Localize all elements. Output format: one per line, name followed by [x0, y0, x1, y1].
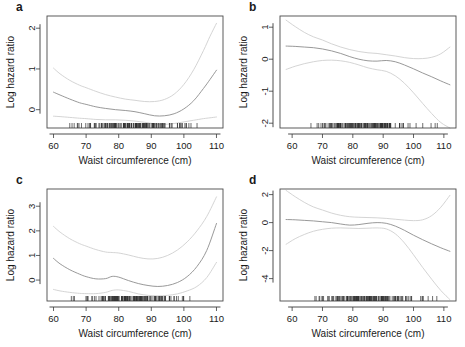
y-axis-title-c: Log hazard ratio [5, 208, 16, 281]
x-tick-label: 100 [406, 140, 422, 151]
y-tick-label: 2 [26, 228, 37, 233]
panel-c: c 607080901001100123Waist circumference … [0, 173, 232, 346]
curve-b-ci-0 [286, 20, 450, 59]
y-axis-title-a: Log hazard ratio [5, 35, 16, 108]
x-tick-label: 70 [317, 140, 328, 151]
curve-d-ci-2 [286, 228, 450, 300]
y-tick-label: 0 [26, 277, 37, 282]
y-axis-title-b: Log hazard ratio [238, 35, 249, 108]
curve-c-ci-0 [54, 197, 217, 259]
x-axis-c: 60708090100110 [48, 307, 224, 324]
rug-plot-c [71, 296, 190, 301]
curve-d-fit [286, 220, 450, 252]
x-axis-title-c: Waist circumference (cm) [79, 328, 192, 339]
y-tick-label: 1 [259, 25, 270, 30]
x-axis-b: 60708090100110 [287, 134, 452, 151]
x-tick-label: 110 [436, 313, 451, 324]
curve-c-ci-2 [54, 262, 217, 295]
y-axis-b: -2-101 [259, 23, 273, 127]
x-tick-label: 100 [406, 313, 422, 324]
curve-b-fit [286, 46, 450, 85]
rug-plot-d [315, 296, 437, 301]
panel-d: d 60708090100110-4-202Waist circumferenc… [233, 173, 465, 346]
x-tick-label: 70 [317, 313, 328, 324]
x-tick-label: 90 [378, 140, 389, 151]
y-axis-d: -4-202 [259, 191, 273, 283]
x-tick-label: 110 [209, 313, 224, 324]
x-tick-label: 80 [348, 140, 359, 151]
y-tick-label: 0 [259, 220, 270, 225]
curve-a-fit [54, 70, 217, 116]
x-axis-title-d: Waist circumference (cm) [312, 328, 425, 339]
y-tick-label: -2 [259, 246, 270, 254]
x-tick-label: 60 [48, 140, 59, 151]
panel-a: a 60708090100110012Waist circumference (… [0, 0, 232, 173]
rug-plot-b [311, 123, 437, 128]
x-tick-label: 80 [113, 140, 124, 151]
rug-plot-a [70, 123, 197, 128]
x-tick-label: 110 [436, 140, 451, 151]
plot-frame-d [280, 189, 456, 301]
y-tick-label: -1 [259, 87, 270, 95]
y-axis-title-d: Log hazard ratio [238, 208, 249, 281]
x-tick-label: 80 [348, 313, 359, 324]
x-tick-label: 60 [287, 313, 298, 324]
x-tick-label: 90 [146, 313, 157, 324]
x-tick-label: 70 [81, 313, 92, 324]
x-axis-title-b: Waist circumference (cm) [312, 155, 425, 166]
y-tick-label: -4 [259, 274, 270, 282]
curve-c-fit [54, 223, 217, 286]
y-axis-c: 0123 [26, 202, 40, 284]
figure-container: a 60708090100110012Waist circumference (… [0, 0, 465, 347]
y-tick-label: 1 [26, 66, 37, 71]
y-tick-label: 0 [26, 107, 37, 112]
curve-d-ci-0 [286, 190, 450, 220]
x-tick-label: 60 [287, 140, 298, 151]
curve-b-ci-2 [286, 60, 450, 128]
plot-frame-a [47, 16, 223, 128]
x-tick-label: 70 [81, 140, 92, 151]
x-tick-label: 60 [48, 313, 59, 324]
panel-b: b 60708090100110-2-101Waist circumferenc… [233, 0, 465, 173]
x-tick-label: 110 [209, 140, 224, 151]
curve-a-ci-0 [54, 23, 217, 101]
y-axis-a: 012 [26, 24, 40, 113]
y-tick-label: 1 [26, 253, 37, 258]
y-tick-label: 3 [26, 204, 37, 209]
plot-frame-c [47, 189, 223, 301]
x-tick-label: 80 [113, 313, 124, 324]
x-axis-a: 60708090100110 [48, 134, 224, 151]
x-tick-label: 100 [176, 313, 192, 324]
y-tick-label: 2 [259, 192, 270, 197]
x-tick-label: 90 [146, 140, 157, 151]
x-axis-title-a: Waist circumference (cm) [79, 155, 192, 166]
y-tick-label: -2 [259, 119, 270, 127]
y-tick-label: 2 [26, 26, 37, 31]
x-tick-label: 90 [378, 313, 389, 324]
x-tick-label: 100 [176, 140, 192, 151]
x-axis-d: 60708090100110 [287, 307, 452, 324]
y-tick-label: 0 [259, 57, 270, 62]
